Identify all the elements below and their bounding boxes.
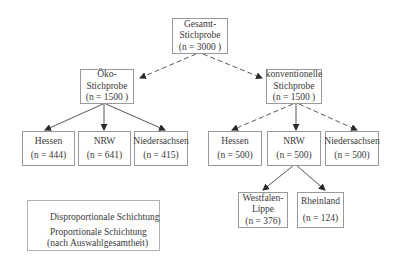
- edge-nrw-rheinland: [296, 165, 325, 190]
- node-oeko-nrw: NRW (n = 641): [78, 131, 131, 166]
- node-title-line2: Stichprobe: [179, 30, 220, 42]
- node-title-line2: Lippe: [252, 204, 274, 216]
- node-westfalen-lippe: Westfalen- Lippe (n = 376): [238, 192, 288, 228]
- node-count: (n = 1500 ): [86, 92, 129, 104]
- edge-root-konv: [203, 54, 262, 78]
- node-oeko-stichprobe: Öko- Stichprobe (n = 1500 ): [80, 69, 134, 104]
- edge-nrw-westfalen: [263, 165, 294, 190]
- node-konv-nrw: NRW (n = 500): [267, 131, 321, 166]
- node-title-line1: Öko-: [97, 69, 117, 81]
- node-konv-hessen: Hessen (n = 500): [208, 131, 262, 166]
- node-count: (n = 124): [303, 213, 338, 225]
- legend-dashed-label: Disproportionale Schichtung: [50, 212, 160, 223]
- node-konv-niedersachsen: Niedersachsen (n = 500): [325, 131, 379, 166]
- node-count: (n = 1500 ): [273, 92, 316, 104]
- node-label: Hessen: [35, 136, 62, 148]
- node-rheinland: Rheinland (n = 124): [297, 192, 344, 228]
- node-oeko-hessen: Hessen (n = 444): [22, 131, 75, 166]
- node-count: (n = 500): [334, 150, 369, 162]
- node-label: Rheinland: [301, 196, 340, 208]
- node-title-line2: Stichprobe: [273, 81, 314, 93]
- legend: Disproportionale Schichtung Proportional…: [27, 200, 160, 251]
- legend-solid-label-line1: Proportionale Schichtung: [50, 227, 147, 238]
- node-title-line1: konventionelle: [266, 69, 322, 81]
- node-count: (n = 500): [276, 150, 311, 162]
- node-title-line1: Westfalen-: [243, 193, 284, 205]
- node-label: Niedersachsen: [133, 136, 188, 148]
- edge-konv-nds: [299, 104, 357, 130]
- edge-oeko-hessen: [45, 104, 103, 130]
- node-label: NRW: [94, 136, 116, 148]
- edge-konv-hessen: [232, 104, 293, 130]
- node-count: (n = 3000 ): [179, 42, 222, 54]
- node-title-line2: Stichprobe: [86, 81, 127, 93]
- node-count: (n = 444): [31, 150, 66, 162]
- node-title-line1: Gesamt-: [184, 19, 216, 31]
- node-oeko-niedersachsen: Niedersachsen (n = 415): [134, 131, 188, 166]
- node-konventionelle-stichprobe: konventionelle Stichprobe (n = 1500 ): [266, 69, 322, 104]
- node-count: (n = 641): [87, 150, 122, 162]
- edge-root-oeko: [140, 54, 196, 78]
- node-label: Hessen: [221, 136, 248, 148]
- node-label: Niedersachsen: [324, 136, 379, 148]
- node-gesamt-stichprobe: Gesamt- Stichprobe (n = 3000 ): [172, 18, 228, 54]
- node-count: (n = 415): [143, 150, 178, 162]
- node-count: (n = 376): [245, 216, 280, 228]
- legend-solid-label-line2: (nach Auswahlgesamtheit): [47, 238, 148, 249]
- edge-oeko-nds: [106, 104, 165, 130]
- node-count: (n = 500): [217, 150, 252, 162]
- node-label: NRW: [283, 136, 305, 148]
